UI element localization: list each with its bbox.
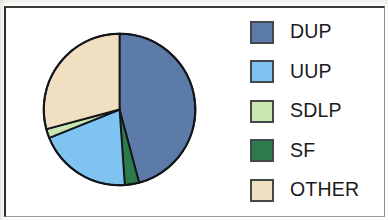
legend-swatch-other [250, 179, 274, 202]
legend-item-sf[interactable]: SF [250, 137, 382, 165]
legend-swatch-dup [250, 21, 274, 44]
legend-item-dup[interactable]: DUP [250, 18, 382, 46]
pie-chart-svg [42, 32, 199, 189]
legend-label-sf: SF [290, 141, 315, 161]
pie-chart [42, 32, 199, 189]
pie-chart-figure: DUP UUP SDLP SF OTHER [0, 0, 388, 220]
legend-label-other: OTHER [290, 180, 359, 200]
legend: DUP UUP SDLP SF OTHER [250, 18, 382, 204]
legend-swatch-sdlp [250, 100, 274, 123]
legend-item-sdlp[interactable]: SDLP [250, 97, 382, 125]
legend-swatch-uup [250, 60, 274, 83]
legend-item-uup[interactable]: UUP [250, 58, 382, 86]
legend-swatch-sf [250, 139, 274, 162]
legend-label-sdlp: SDLP [290, 101, 342, 121]
legend-label-dup: DUP [290, 22, 332, 42]
legend-label-uup: UUP [290, 62, 332, 82]
legend-item-other[interactable]: OTHER [250, 176, 382, 204]
